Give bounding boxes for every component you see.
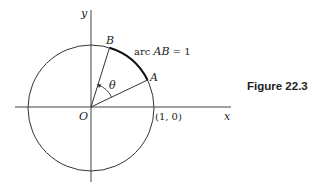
radius-oa	[91, 80, 148, 107]
point-a-label: A	[149, 71, 158, 84]
y-axis-label: y	[80, 7, 88, 20]
arc-name: AB	[153, 45, 170, 58]
radius-ob	[91, 48, 110, 107]
unit-point-label: (1, 0)	[155, 111, 182, 122]
theta-label: θ	[109, 79, 116, 92]
arc-prefix: arc	[134, 46, 154, 57]
arc-length-label: arc AB = 1	[134, 45, 191, 58]
point-b-label: B	[105, 34, 114, 47]
figure-caption: Figure 22.3	[247, 80, 308, 92]
arc-value: = 1	[170, 46, 191, 57]
unit-circle-diagram: y x O B A θ (1, 0) arc AB = 1	[0, 0, 323, 191]
origin-label: O	[79, 110, 88, 123]
x-axis-label: x	[224, 110, 231, 123]
